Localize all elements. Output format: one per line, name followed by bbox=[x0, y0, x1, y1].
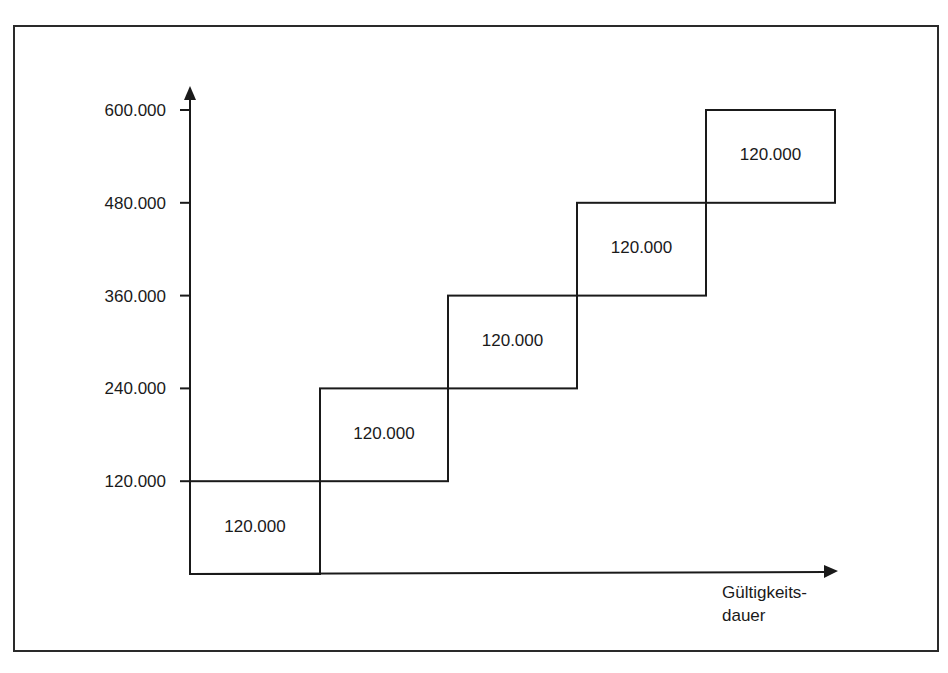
x-axis-arrow-icon bbox=[824, 565, 838, 578]
y-tick-label: 360.000 bbox=[105, 287, 166, 306]
x-axis-title-line-2: dauer bbox=[722, 606, 766, 625]
y-ticks: 120.000240.000360.000480.000600.000 bbox=[105, 101, 190, 491]
step-box-label: 120.000 bbox=[224, 517, 285, 536]
step-chart: 120.000240.000360.000480.000600.000 120.… bbox=[0, 0, 948, 673]
y-tick-label: 480.000 bbox=[105, 194, 166, 213]
y-axis-arrow-icon bbox=[184, 86, 196, 100]
step-boxes: 120.000120.000120.000120.000120.000 bbox=[190, 110, 835, 574]
y-tick-label: 240.000 bbox=[105, 379, 166, 398]
y-tick-label: 120.000 bbox=[105, 472, 166, 491]
step-box-label: 120.000 bbox=[740, 145, 801, 164]
y-tick-label: 600.000 bbox=[105, 101, 166, 120]
step-box-label: 120.000 bbox=[353, 424, 414, 443]
step-box-label: 120.000 bbox=[482, 331, 543, 350]
step-box-label: 120.000 bbox=[611, 238, 672, 257]
x-axis-title-line-1: Gültigkeits- bbox=[722, 583, 807, 602]
